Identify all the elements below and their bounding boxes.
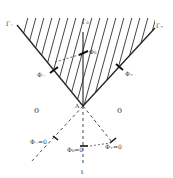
label-phi-plus-zero: Φ₊=0 [105, 143, 122, 150]
label-gamma-minus: Γ₋ [6, 20, 13, 27]
label-gamma-plus: Γ₊ [156, 22, 163, 29]
label-axis-t: t [81, 168, 84, 175]
label-vertex-a: A [74, 102, 80, 109]
label-region-right: 0 [117, 106, 122, 115]
label-phi-minus-zero: Φ₋=0 [30, 138, 47, 145]
label-phi-plus: Φ₊ [125, 70, 133, 77]
gamma-minus-curve [17, 25, 83, 106]
dashed-line-right [83, 106, 112, 142]
label-phi-minus: Φ₋ [37, 71, 45, 78]
diagram-canvas: Γ₋ Γ₀ Γ₊ Φ₋ Φ₀ Φ₊ A 0 0 Φ₋=0 Φ₀=0 Φ₊=0 t [0, 0, 173, 178]
label-phi-zero: Φ₀ [89, 48, 97, 55]
dashed-connector-upper [55, 54, 82, 62]
label-phi-zero-zero: Φ₀=0 [67, 146, 83, 153]
label-gamma-zero: Γ₀ [82, 18, 89, 25]
label-region-left: 0 [34, 106, 39, 115]
